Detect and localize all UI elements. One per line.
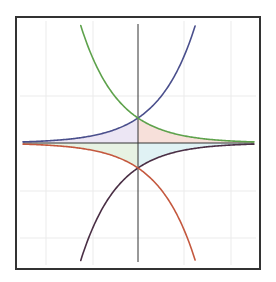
fill-upper-right: [138, 118, 254, 143]
curve-e-x: [81, 144, 254, 260]
curve-e-x: [23, 26, 195, 142]
axes: [23, 24, 254, 262]
fill-lower-right: [138, 143, 254, 168]
curve-e-x: [81, 26, 254, 142]
exponential-plot: [0, 0, 276, 282]
fill-lower-left: [23, 143, 138, 168]
curve-e-x: [23, 144, 195, 260]
fill-upper-left: [23, 118, 138, 143]
